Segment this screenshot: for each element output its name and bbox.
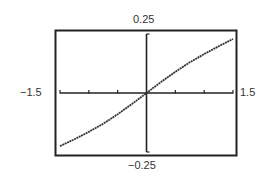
xmin-label: −1.5: [20, 86, 42, 98]
ymin-label: −0.25: [128, 159, 156, 171]
xmax-label: 1.5: [240, 86, 255, 98]
ymax-label: 0.25: [133, 13, 154, 25]
